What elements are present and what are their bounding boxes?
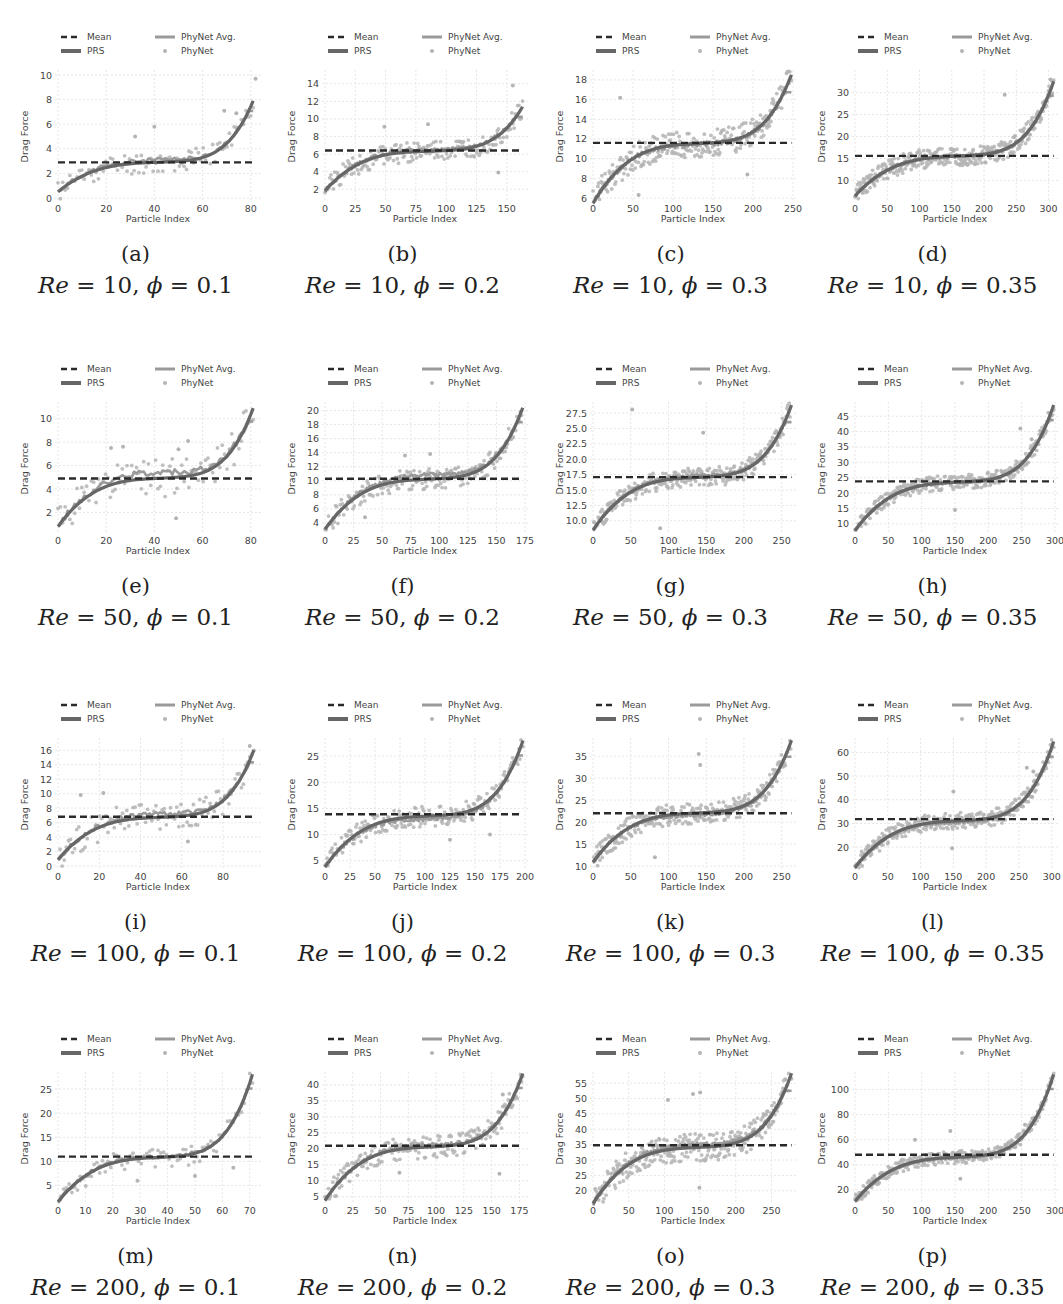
y-axis-label: Drag Force (554, 110, 565, 162)
x-tick-label: 175 (516, 535, 534, 546)
phi-value: 0.2 (463, 604, 500, 630)
legend-label: Mean (622, 1034, 647, 1044)
x-axis-label: Particle Index (923, 1215, 988, 1226)
equals-sign: = (429, 272, 463, 298)
reynolds-value: 50 (893, 604, 922, 630)
equals-sign: = (859, 272, 893, 298)
equals-sign: = (597, 1274, 631, 1300)
phynet-scatter (853, 1071, 1055, 1201)
phynet-scatter (56, 409, 255, 525)
subfigure-label: (i) (3, 910, 268, 934)
phi-symbol: ϕ (414, 604, 430, 630)
x-tick-label: 0 (322, 203, 328, 214)
legend: MeanPRSPhyNet Avg.PhyNet (596, 32, 771, 56)
phi-symbol: ϕ (147, 604, 163, 630)
y-tick-label: 30 (837, 818, 849, 829)
x-tick-label: 60 (216, 1205, 228, 1216)
legend: MeanPRSPhyNet Avg.PhyNet (858, 700, 1033, 724)
y-tick-label: 35 (837, 441, 849, 452)
legend-label: PhyNet Avg. (978, 32, 1033, 42)
y-tick-label: 8 (46, 803, 52, 814)
y-tick-label: 14 (575, 114, 587, 125)
line-scatter-chart: MeanPRSPhyNet Avg.PhyNet0501001502002502… (538, 1022, 803, 1242)
y-tick-label: 2 (46, 846, 52, 857)
y-tick-label: 12 (575, 133, 587, 144)
x-axis-label: Particle Index (126, 545, 191, 556)
condition-label: Re = 100, ϕ = 0.35 (800, 940, 1063, 966)
x-tick-label: 0 (322, 1205, 328, 1216)
y-tick-label: 25.0 (566, 423, 587, 434)
x-tick-label: 150 (466, 871, 484, 882)
y-tick-label: 14 (40, 759, 52, 770)
x-tick-label: 150 (498, 203, 516, 214)
phi-value: 0.2 (463, 272, 500, 298)
x-axis-label: Particle Index (393, 881, 458, 892)
chart-panel-m: MeanPRSPhyNet Avg.PhyNet0102030405060705… (3, 1022, 268, 1304)
subfigure-label: (e) (3, 574, 268, 598)
y-tick-label: 30 (837, 457, 849, 468)
x-tick-label: 80 (245, 203, 257, 214)
y-tick-label: 4 (313, 166, 319, 177)
phynet-scatter (592, 1072, 794, 1204)
y-tick-label: 15.0 (566, 485, 587, 496)
phi-symbol: ϕ (682, 604, 698, 630)
y-tick-label: 14 (307, 78, 319, 89)
x-tick-label: 80 (217, 871, 229, 882)
x-tick-label: 0 (590, 535, 596, 546)
legend-label: PRS (87, 714, 105, 724)
x-tick-label: 150 (487, 535, 505, 546)
legend-label: PRS (622, 46, 640, 56)
reynolds-value: 50 (638, 604, 667, 630)
legend: MeanPRSPhyNet Avg.PhyNet (61, 364, 236, 388)
y-tick-label: 6 (581, 193, 587, 204)
x-axis-label: Particle Index (923, 881, 988, 892)
x-tick-label: 200 (727, 1205, 745, 1216)
equals-sign: = (69, 604, 103, 630)
cropped-text-fragment (700, 0, 1063, 6)
separator: , (922, 272, 937, 298)
subfigure-label: (p) (800, 1244, 1063, 1268)
legend-label: Mean (354, 700, 379, 710)
phynet-avg-line (58, 762, 254, 860)
phynet-scatter (56, 77, 257, 201)
y-tick-label: 22.5 (566, 438, 587, 449)
x-tick-label: 175 (510, 1205, 528, 1216)
reynolds-symbol: Re (305, 604, 336, 630)
y-tick-label: 45 (575, 1108, 587, 1119)
y-tick-label: 20 (307, 777, 319, 788)
chart-panel-p: MeanPRSPhyNet Avg.PhyNet0501001502002503… (800, 1022, 1063, 1304)
phi-symbol: ϕ (944, 1274, 960, 1300)
legend-label: PRS (354, 714, 372, 724)
y-tick-label: 18 (307, 419, 319, 430)
prs-line (325, 741, 523, 867)
legend-label: PhyNet (716, 1048, 749, 1058)
legend: MeanPRSPhyNet Avg.PhyNet (858, 1034, 1033, 1058)
x-tick-label: 50 (625, 535, 637, 546)
legend-label: Mean (87, 700, 112, 710)
legend-label: PRS (622, 714, 640, 724)
x-axis-label: Particle Index (393, 213, 458, 224)
separator: , (674, 940, 689, 966)
y-tick-label: 14 (307, 447, 319, 458)
subfigure-label: (a) (3, 242, 268, 266)
prs-line (58, 101, 253, 192)
y-tick-label: 40 (575, 1124, 587, 1135)
x-tick-label: 50 (375, 1205, 387, 1216)
x-tick-label: 150 (483, 1205, 501, 1216)
x-tick-label: 80 (245, 535, 257, 546)
y-axis-label: Drag Force (286, 778, 297, 830)
y-axis-label: Drag Force (554, 442, 565, 494)
y-tick-label: 30 (575, 773, 587, 784)
condition-label: Re = 50, ϕ = 0.2 (270, 604, 535, 630)
legend-label: Mean (354, 1034, 379, 1044)
y-axis-label: Drag Force (19, 778, 30, 830)
equals-sign: = (437, 1274, 471, 1300)
equals-sign: = (336, 604, 370, 630)
y-tick-label: 20 (837, 488, 849, 499)
y-tick-label: 18 (575, 74, 587, 85)
reynolds-symbol: Re (305, 272, 336, 298)
legend: MeanPRSPhyNet Avg.PhyNet (328, 364, 503, 388)
equals-sign: = (597, 940, 631, 966)
x-tick-label: 50 (625, 871, 637, 882)
reynolds-symbol: Re (31, 940, 62, 966)
